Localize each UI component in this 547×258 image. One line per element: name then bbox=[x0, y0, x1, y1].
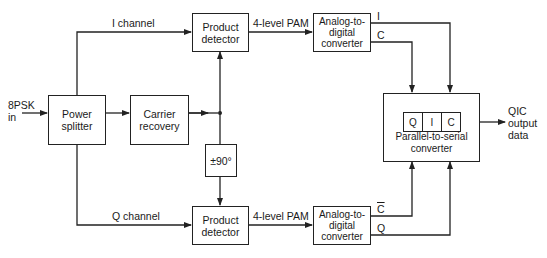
adc-q-block: Analog-to- digital converter bbox=[313, 206, 371, 245]
adc-i-label-3: converter bbox=[319, 38, 365, 49]
i-channel-label: I channel bbox=[112, 17, 155, 29]
output-label-line1: QIC bbox=[508, 105, 537, 117]
adc-q-label-2: digital bbox=[319, 220, 365, 231]
product-detector-q-block: Product detector bbox=[192, 206, 249, 245]
product-detector-q-label-1: Product bbox=[202, 214, 240, 226]
input-label-line2: in bbox=[8, 111, 35, 123]
adc-q-out-cbar-label: C bbox=[377, 203, 385, 215]
output-label: QIC output data bbox=[508, 105, 537, 141]
phase-shifter-block: ±90° bbox=[205, 144, 237, 177]
pam-q-label: 4-level PAM bbox=[253, 210, 309, 222]
product-detector-q-label-2: detector bbox=[202, 226, 240, 238]
product-detector-i-label-2: detector bbox=[202, 33, 240, 45]
adc-q-out-q-label: Q bbox=[377, 222, 385, 234]
adc-q-label-3: converter bbox=[319, 231, 365, 242]
q-channel-label: Q channel bbox=[112, 210, 160, 222]
i-channel-line bbox=[77, 32, 191, 95]
adc-i-out-c-label: C bbox=[377, 29, 385, 41]
phase-shifter-label: ±90° bbox=[210, 155, 232, 167]
carrier-recovery-block: Carrier recovery bbox=[130, 95, 189, 145]
adc-i-out-i-label: I bbox=[377, 10, 380, 22]
adc-q-label-1: Analog-to- bbox=[319, 209, 365, 220]
product-detector-i-block: Product detector bbox=[192, 13, 249, 52]
output-label-line3: data bbox=[508, 129, 537, 141]
parallel-to-serial-label-1: Parallel-to-serial bbox=[395, 131, 467, 143]
power-splitter-block: Power splitter bbox=[48, 95, 106, 145]
parallel-to-serial-label-2: converter bbox=[395, 143, 467, 155]
register-cell-q: Q bbox=[403, 112, 423, 132]
adc-i-label-1: Analog-to- bbox=[319, 16, 365, 27]
junction-dot bbox=[218, 111, 222, 115]
power-splitter-label-2: splitter bbox=[62, 120, 93, 132]
power-splitter-label-1: Power bbox=[62, 108, 93, 120]
output-label-line2: output bbox=[508, 117, 537, 129]
carrier-recovery-label-1: Carrier bbox=[139, 108, 179, 120]
register-cell-i: I bbox=[422, 112, 442, 132]
carrier-recovery-label-2: recovery bbox=[139, 120, 179, 132]
input-label-line1: 8PSK bbox=[8, 99, 35, 111]
adc-i-block: Analog-to- digital converter bbox=[313, 13, 371, 52]
register-cell-c: C bbox=[441, 112, 461, 132]
product-detector-i-label-1: Product bbox=[202, 21, 240, 33]
adc-i-out-c-arrow bbox=[370, 42, 412, 92]
adc-i-label-2: digital bbox=[319, 27, 365, 38]
input-label: 8PSK in bbox=[8, 99, 35, 123]
pam-i-label: 4-level PAM bbox=[253, 17, 309, 29]
